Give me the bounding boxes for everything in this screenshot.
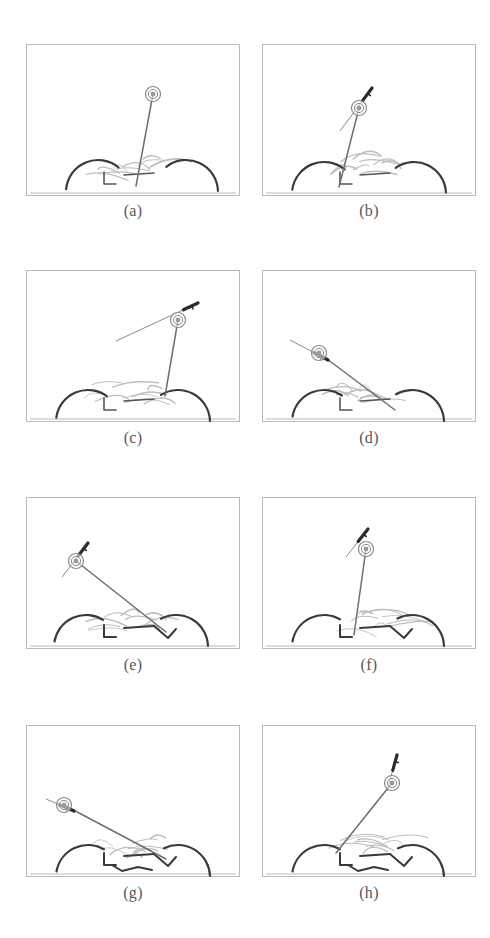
arm-arc-left: [292, 845, 340, 871]
panel-scene-b: [262, 44, 476, 196]
arm-arc-left: [292, 390, 341, 416]
panel-scene-d: [262, 270, 476, 422]
gripper-detail-group: [104, 853, 176, 871]
panel-caption-h: (h): [262, 884, 476, 902]
pole: [336, 783, 392, 853]
pole-tip-marker-icon: [171, 313, 186, 328]
figure-panel-e: [26, 497, 240, 649]
pole-tip-marker-icon: [146, 87, 161, 102]
pole: [339, 108, 359, 187]
panel-scene-f: [262, 497, 476, 649]
pole-tip-marker-icon: [57, 798, 72, 813]
figure-panel-g: [26, 725, 240, 877]
figure-panel-d: [262, 270, 476, 422]
arm-arc-right: [166, 160, 218, 191]
arm-arc-right: [398, 845, 444, 876]
pole-tip-marker-icon: [385, 776, 400, 791]
panel-caption-b: (b): [262, 202, 476, 220]
pole-tip-marker-icon: [352, 101, 367, 116]
panel-caption-c: (c): [26, 429, 240, 447]
arm-arc-right: [164, 845, 210, 876]
arrow-head-icon: [362, 88, 372, 101]
figure-panel-grid: (a)(b)(c)(d)(e)(f)(g)(h): [0, 0, 490, 938]
panel-caption-g: (g): [26, 884, 240, 902]
pole: [76, 561, 166, 632]
figure-panel-c: [26, 270, 240, 422]
gripper-detail-group: [104, 172, 154, 184]
pole-tip-marker-icon: [359, 542, 374, 557]
arm-arc-left: [56, 845, 104, 871]
panel-scene-e: [26, 497, 240, 649]
figure-panel-b: [262, 44, 476, 196]
panel-scene-h: [262, 725, 476, 877]
arrow-head-icon: [358, 529, 368, 542]
arrow-head-icon: [78, 543, 88, 556]
pole: [136, 94, 153, 186]
sketch-detail-group: [331, 151, 401, 174]
figure-panel-h: [262, 725, 476, 877]
panel-caption-e: (e): [26, 656, 240, 674]
pole: [319, 353, 395, 410]
pole: [165, 320, 178, 396]
panel-caption-f: (f): [262, 656, 476, 674]
arm-arc-left: [292, 162, 344, 190]
gripper-detail-group: [340, 853, 412, 871]
arm-arc-right: [396, 390, 444, 421]
arm-arc-right: [396, 162, 446, 192]
panel-scene-a: [26, 44, 240, 196]
gripper-detail-group: [340, 172, 390, 184]
pole-tip-marker-icon: [312, 346, 327, 361]
panel-scene-g: [26, 725, 240, 877]
panel-scene-c: [26, 270, 240, 422]
arm-arc-right: [161, 615, 208, 646]
arm-arc-right: [161, 390, 210, 421]
figure-panel-a: [26, 44, 240, 196]
panel-caption-a: (a): [26, 202, 240, 220]
figure-panel-f: [262, 497, 476, 649]
arrow-head-icon: [183, 303, 198, 310]
arm-arc-left: [56, 390, 107, 418]
pole-tip-marker-icon: [69, 554, 84, 569]
arm-arc-left: [292, 615, 340, 641]
panel-caption-d: (d): [262, 429, 476, 447]
pole: [354, 549, 366, 635]
sketch-detail-group: [337, 609, 434, 637]
